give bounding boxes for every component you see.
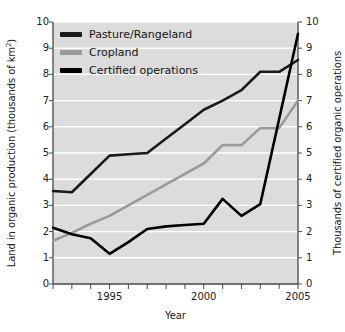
legend-swatch-certified-operations [60,68,82,73]
legend-label-certified-operations: Certified operations [89,64,198,77]
y-axis-right-ticklabel: 4 [306,173,326,185]
y-axis-left-ticklabel: 8 [29,68,49,80]
x-axis-ticklabel: 1995 [90,291,130,302]
x-axis-ticklabel: 2000 [184,291,224,302]
x-axis-ticklabel: 2005 [278,291,318,302]
y-axis-right-ticklabel: 9 [306,42,326,54]
y-axis-left-ticklabel: 4 [29,173,49,185]
y-axis-right-ticklabel: 5 [306,147,326,159]
legend-item-certified-operations: Certified operations [60,63,198,78]
y-axis-left-ticklabel: 3 [29,199,49,211]
y-axis-left-ticklabel: 9 [29,42,49,54]
y-axis-right-ticklabel: 8 [306,68,326,80]
y-axis-left-title-superscript: 2 [5,43,13,47]
y-axis-left-ticklabel: 6 [29,121,49,133]
y-axis-right-ticklabel: 2 [306,226,326,238]
legend-label-pasture-rangeland: Pasture/Rangeland [89,28,192,41]
chart-legend: Pasture/Rangeland Cropland Certified ope… [60,27,198,81]
y-axis-right-ticklabel: 10 [306,16,326,28]
y-axis-left-title: Land in organic production (thousands of… [2,22,16,284]
y-axis-left-ticklabel: 0 [29,278,49,290]
y-axis-left-ticklabel: 5 [29,147,49,159]
y-axis-left-ticklabel: 10 [29,16,49,28]
y-axis-right-ticklabel: 1 [306,252,326,264]
y-axis-left-title-tail: ) [6,39,17,43]
y-axis-right-ticklabel: 3 [306,199,326,211]
legend-swatch-cropland [60,50,82,55]
y-axis-left-ticklabel: 2 [29,226,49,238]
chart-figure: Pasture/Rangeland Cropland Certified ope… [0,0,345,332]
y-axis-left-ticklabel: 1 [29,252,49,264]
y-axis-left-title-main: Land in organic production (thousands of… [6,47,17,267]
legend-item-cropland: Cropland [60,45,198,60]
y-axis-right-ticklabel: 0 [306,278,326,290]
legend-label-cropland: Cropland [89,46,138,59]
y-axis-right-ticklabel: 6 [306,121,326,133]
y-axis-right-ticklabel: 7 [306,95,326,107]
y-axis-left-ticklabel: 7 [29,95,49,107]
legend-item-pasture-rangeland: Pasture/Rangeland [60,27,198,42]
x-axis-title: Year [53,310,298,321]
legend-swatch-pasture-rangeland [60,32,82,37]
y-axis-right-title: Thousands of certified organic operation… [331,22,345,284]
